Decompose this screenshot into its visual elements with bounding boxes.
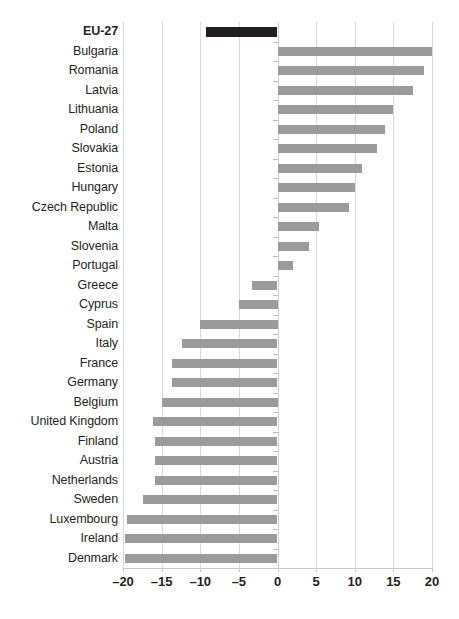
axis-tickmark xyxy=(273,159,278,160)
axis-tickmark xyxy=(273,510,278,511)
axis-tickmark xyxy=(273,490,278,491)
category-label: Belgium xyxy=(0,396,118,409)
bar xyxy=(153,417,277,426)
category-label: Spain xyxy=(0,318,118,331)
category-label: Denmark xyxy=(0,552,118,565)
bar xyxy=(278,125,385,134)
axis-tickmark xyxy=(273,393,278,394)
category-label: Luxembourg xyxy=(0,513,118,526)
axis-tickmark xyxy=(273,120,278,121)
bar xyxy=(252,281,277,290)
x-tick-mark xyxy=(355,568,356,572)
x-tick-mark xyxy=(162,568,163,572)
plot-area xyxy=(123,22,432,568)
x-tick-mark xyxy=(239,568,240,572)
bar xyxy=(172,378,277,387)
axis-tickmark xyxy=(273,256,278,257)
category-label: Bulgaria xyxy=(0,45,118,58)
bar xyxy=(155,476,277,485)
category-axis-labels: EU-27BulgariaRomaniaLatviaLithuaniaPolan… xyxy=(0,22,118,568)
gridline-5 xyxy=(316,22,317,568)
bar xyxy=(200,320,277,329)
category-label: Poland xyxy=(0,123,118,136)
bar xyxy=(278,105,394,114)
gridline--10 xyxy=(200,22,201,568)
axis-tickmark xyxy=(273,61,278,62)
bar xyxy=(278,222,320,231)
axis-tickmark xyxy=(273,198,278,199)
category-label: Romania xyxy=(0,64,118,77)
x-tick-mark xyxy=(316,568,317,572)
x-tick-label: –20 xyxy=(112,574,134,589)
category-label: Sweden xyxy=(0,493,118,506)
category-label: France xyxy=(0,357,118,370)
bar xyxy=(278,203,350,212)
x-tick-mark xyxy=(393,568,394,572)
category-label: Finland xyxy=(0,435,118,448)
bar xyxy=(182,339,278,348)
category-label: Slovenia xyxy=(0,240,118,253)
axis-tickmark xyxy=(273,529,278,530)
axis-tickmark xyxy=(273,432,278,433)
bar xyxy=(278,183,355,192)
category-label: Latvia xyxy=(0,84,118,97)
bar xyxy=(278,164,363,173)
category-label: Cyprus xyxy=(0,298,118,311)
category-label: Slovakia xyxy=(0,142,118,155)
bar xyxy=(278,144,378,153)
chart-container: EU-27BulgariaRomaniaLatviaLithuaniaPolan… xyxy=(0,0,459,619)
bar xyxy=(278,47,433,56)
category-label: Czech Republic xyxy=(0,201,118,214)
category-label: Portugal xyxy=(0,259,118,272)
bar xyxy=(162,398,278,407)
axis-tickmark xyxy=(273,217,278,218)
category-label: Greece xyxy=(0,279,118,292)
category-label: United Kingdom xyxy=(0,415,118,428)
bar xyxy=(125,534,277,543)
gridline--15 xyxy=(162,22,163,568)
axis-tickmark xyxy=(273,81,278,82)
x-tick-mark xyxy=(200,568,201,572)
x-tick-mark xyxy=(123,568,124,572)
bar xyxy=(143,495,277,504)
x-tick-label: 10 xyxy=(348,574,362,589)
x-tick-mark xyxy=(278,568,279,572)
gridline-20 xyxy=(432,22,433,568)
category-label: Hungary xyxy=(0,181,118,194)
x-tick-label: 15 xyxy=(386,574,400,589)
category-label: Lithuania xyxy=(0,103,118,116)
x-tick-mark xyxy=(432,568,433,572)
bar xyxy=(278,261,293,270)
bar xyxy=(125,554,277,563)
axis-tickmark xyxy=(273,100,278,101)
category-label: Estonia xyxy=(0,162,118,175)
axis-tickmark xyxy=(273,549,278,550)
axis-tickmark xyxy=(273,178,278,179)
category-label: Germany xyxy=(0,376,118,389)
bar xyxy=(127,515,278,524)
category-label: Netherlands xyxy=(0,474,118,487)
axis-tickmark xyxy=(273,334,278,335)
gridline-10 xyxy=(355,22,356,568)
axis-tickmark xyxy=(273,315,278,316)
category-label: Malta xyxy=(0,220,118,233)
axis-tickmark xyxy=(273,295,278,296)
x-tick-label: 5 xyxy=(313,574,320,589)
gridline-15 xyxy=(393,22,394,568)
x-tick-label: 20 xyxy=(425,574,439,589)
bar xyxy=(278,86,414,95)
axis-tickmark xyxy=(273,471,278,472)
bar xyxy=(278,242,310,251)
bar xyxy=(172,359,278,368)
x-tick-label: –5 xyxy=(232,574,246,589)
category-label: EU-27 xyxy=(0,25,118,38)
gridline--20 xyxy=(123,22,124,568)
bar xyxy=(155,456,278,465)
bar xyxy=(206,27,278,37)
axis-tickmark xyxy=(273,412,278,413)
category-label: Ireland xyxy=(0,532,118,545)
category-label: Italy xyxy=(0,337,118,350)
axis-tickmark xyxy=(273,42,278,43)
bar xyxy=(239,300,278,309)
axis-tickmark xyxy=(273,354,278,355)
